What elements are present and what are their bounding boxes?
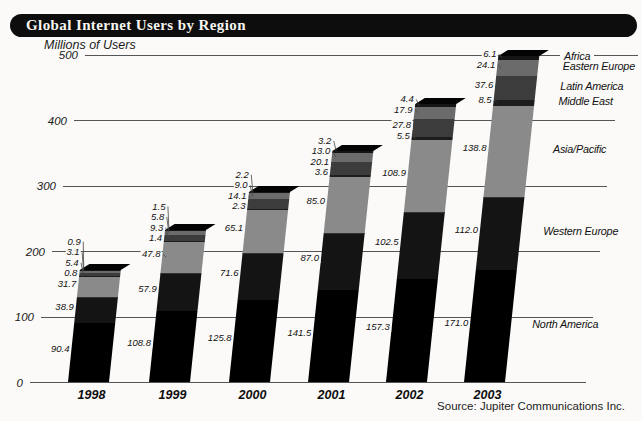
legend-north-america: North America: [528, 318, 602, 330]
segment-latin-america: [79, 273, 120, 277]
value-label-africa: 0.9: [67, 237, 82, 247]
y-tick-100: 100: [15, 311, 34, 323]
segment-africa: [165, 230, 206, 231]
value-label-asia-pacific: 31.7: [57, 279, 78, 289]
year-label-1999: 1999: [159, 388, 187, 402]
chart-title-bar: Global Internet Users by Region: [10, 14, 637, 37]
segment-eastern-europe: [248, 193, 290, 199]
segment-asia-pacific: [483, 106, 534, 197]
y-tick-500: 500: [59, 49, 78, 61]
value-label-africa: 3.2: [317, 136, 332, 146]
year-label-2001: 2001: [318, 388, 346, 402]
segment-western-europe: [74, 297, 118, 322]
segment-asia-pacific: [160, 242, 204, 273]
segment-asia-pacific: [243, 210, 288, 253]
value-label-latin-america: 20.1: [310, 157, 331, 167]
value-label-eastern-europe: 13.0: [311, 146, 332, 156]
value-label-asia-pacific: 108.9: [381, 168, 407, 178]
segment-africa: [80, 270, 121, 271]
value-label-middle-east: 0.8: [63, 268, 78, 278]
segment-africa: [498, 56, 539, 60]
legend-asia-pacific: Asia/Pacific: [549, 143, 610, 155]
segment-eastern-europe: [496, 60, 539, 76]
value-label-north-america: 125.8: [207, 333, 233, 343]
segment-africa: [249, 192, 290, 193]
value-label-middle-east: 1.4: [148, 233, 163, 243]
segment-north-america: [229, 300, 279, 382]
segment-north-america: [464, 270, 517, 382]
segment-latin-america: [494, 76, 538, 101]
segment-middle-east: [247, 209, 288, 211]
bar-2001: [308, 145, 374, 382]
segment-africa: [415, 104, 456, 107]
value-label-western-europe: 38.9: [54, 302, 75, 312]
segment-eastern-europe: [331, 153, 373, 162]
y-axis-title: Millions of Users: [44, 38, 136, 52]
segment-western-europe: [476, 197, 525, 270]
value-label-western-europe: 112.0: [454, 225, 479, 235]
gridline-500: [85, 55, 638, 56]
segment-western-europe: [156, 273, 201, 311]
value-label-western-europe: 87.0: [300, 253, 321, 263]
segment-asia-pacific: [404, 141, 452, 212]
segment-western-europe: [397, 212, 445, 279]
bar-top-face: [80, 264, 131, 270]
value-label-north-america: 90.4: [50, 344, 71, 354]
value-label-asia-pacific: 85.0: [305, 196, 326, 206]
segment-north-america: [149, 311, 197, 382]
value-label-north-america: 157.3: [365, 322, 391, 332]
bar-top-face: [332, 145, 383, 151]
value-label-middle-east: 2.3: [231, 201, 246, 211]
segment-eastern-europe: [165, 231, 206, 235]
value-label-eastern-europe: 5.8: [150, 212, 165, 222]
source-attribution: Source: Jupiter Communications Inc.: [437, 400, 625, 412]
segment-north-america: [308, 289, 359, 382]
bar-2003: [464, 50, 540, 382]
y-tick-0: 0: [17, 377, 23, 389]
value-label-eastern-europe: 3.1: [65, 247, 80, 257]
value-label-north-america: 141.5: [286, 328, 312, 338]
value-label-western-europe: 71.6: [219, 268, 240, 278]
value-label-north-america: 171.0: [443, 318, 469, 328]
legend-latin-america: Latin America: [556, 80, 627, 92]
segment-north-america: [68, 323, 115, 382]
value-label-latin-america: 9.3: [149, 223, 164, 233]
year-label-2000: 2000: [239, 388, 267, 402]
value-label-western-europe: 57.9: [137, 284, 158, 294]
segment-latin-america: [247, 199, 289, 208]
value-label-africa: 2.2: [235, 170, 250, 180]
year-label-1998: 1998: [78, 388, 106, 402]
y-tick-400: 400: [48, 115, 67, 127]
segment-africa: [332, 151, 373, 153]
year-label-2002: 2002: [396, 388, 424, 402]
value-label-north-america: 108.8: [126, 338, 152, 348]
legend-western-europe: Western Europe: [539, 225, 622, 237]
y-tick-200: 200: [26, 246, 45, 258]
value-label-latin-america: 14.1: [227, 191, 248, 201]
segment-asia-pacific: [77, 277, 120, 298]
value-label-eastern-europe: 9.0: [233, 180, 248, 190]
segment-latin-america: [412, 119, 455, 137]
value-label-middle-east: 5.5: [396, 131, 411, 141]
segment-latin-america: [164, 235, 206, 241]
value-label-eastern-europe: 17.9: [393, 105, 414, 115]
y-tick-300: 300: [37, 180, 56, 192]
gridline-400: [74, 120, 615, 121]
segment-western-europe: [238, 253, 284, 300]
value-label-middle-east: 3.6: [314, 167, 329, 177]
segment-eastern-europe: [80, 270, 121, 272]
value-label-latin-america: 37.6: [474, 80, 495, 90]
legend-middle-east: Middle East: [555, 95, 617, 107]
segment-north-america: [386, 279, 438, 382]
chart-figure: Global Internet Users by Region Millions…: [0, 0, 642, 421]
value-label-middle-east: 8.5: [477, 95, 492, 105]
segment-eastern-europe: [414, 107, 456, 119]
segment-western-europe: [318, 232, 365, 289]
value-label-asia-pacific: 65.1: [224, 223, 245, 233]
legend-eastern-europe: Eastern Europe: [559, 60, 639, 72]
value-label-asia-pacific: 47.8: [141, 249, 162, 259]
bar-2000: [229, 186, 291, 382]
segment-middle-east: [411, 137, 452, 141]
segment-latin-america: [330, 161, 372, 174]
value-label-latin-america: 27.8: [392, 120, 413, 130]
